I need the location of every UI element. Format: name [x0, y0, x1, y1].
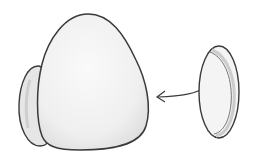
right-disc — [199, 46, 239, 138]
egg-body — [38, 14, 149, 150]
sketch-illustration — [0, 0, 255, 160]
